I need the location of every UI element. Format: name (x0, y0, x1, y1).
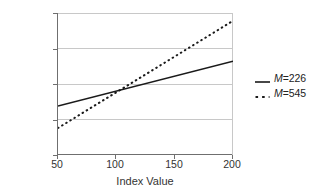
x-tick-label-200: 200 (223, 158, 241, 170)
legend-item-m226: M=226 (255, 70, 321, 85)
plot-area (57, 13, 232, 155)
solid-line-swatch (255, 73, 270, 83)
legend-label-m545: M=545 (274, 87, 306, 99)
legend-label-m226: M=226 (274, 72, 306, 84)
legend-symbol-m545: M (274, 87, 283, 99)
plot-svg (58, 13, 233, 155)
x-tick-label-150: 150 (165, 158, 183, 170)
legend-symbol-m226: M (274, 72, 283, 84)
gridlines (58, 13, 233, 120)
legend-value-m226: =226 (283, 72, 306, 84)
legend-item-m545: M=545 (255, 85, 321, 100)
chart-legend: M=226 M=545 (255, 70, 321, 100)
x-tick-label-100: 100 (106, 158, 124, 170)
dotted-line-swatch (255, 88, 270, 98)
x-axis-title: Index Value (0, 175, 290, 187)
dotted-line-swatch-svg (255, 92, 270, 102)
series-line-m545 (58, 21, 233, 128)
legend-value-m545: =545 (283, 87, 306, 99)
chart-figure: 1000% 500% 0% -500% -1000% (0, 0, 322, 195)
x-tick-label-50: 50 (51, 158, 63, 170)
solid-line-swatch-svg (255, 77, 270, 87)
